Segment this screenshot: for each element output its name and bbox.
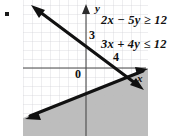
inequality-label-1: 2x − 5y ≥ 12 [101, 13, 167, 28]
x-intercept-label: 4 [113, 50, 119, 65]
x-axis-label: x [137, 72, 143, 84]
y-axis-label: y [95, 2, 100, 14]
inequality-label-2: 3x + 4y ≤ 12 [101, 37, 167, 52]
origin-label: 0 [75, 67, 81, 82]
figure-container: 2x − 5y ≥ 12 3x + 4y ≤ 12 y x 0 3 4 [0, 0, 192, 136]
y-intercept-label: 3 [89, 28, 95, 43]
